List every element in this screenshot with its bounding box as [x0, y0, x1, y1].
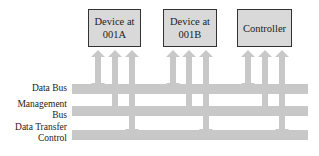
controller-data-bus-arrow-icon [241, 50, 255, 90]
device-001b-label-line1: Device at [170, 16, 210, 27]
device-001a-management-bus-arrow-icon [108, 50, 122, 112]
data-bus-label-text: Data Bus [32, 83, 67, 93]
device-001a-label-line1: Device at [95, 16, 135, 27]
controller-management-bus-arrow-icon [258, 50, 272, 112]
data-transfer-control-label-line1: Data Transfer [15, 122, 67, 132]
management-bus-label-line1: Management [17, 99, 67, 109]
device-001a-data-bus-arrow-icon [91, 50, 105, 90]
device-001a-label-line2: 001A [103, 29, 126, 40]
data-transfer-control-label-line2: Control [38, 133, 67, 143]
controller-box: Controller [237, 9, 292, 47]
device-001a-box: Device at 001A [88, 9, 141, 47]
device-001b-label-line2: 001B [179, 29, 202, 40]
device-001b-management-bus-arrow-icon [182, 50, 196, 112]
device-001b-box: Device at 001B [163, 9, 217, 47]
data-bus-label: Data Bus [32, 83, 67, 94]
device-001b-data-bus-arrow-icon [166, 50, 180, 90]
management-bus-label-line2: Bus [52, 110, 67, 120]
data-transfer-control-bus-line [72, 130, 308, 140]
management-bus-label: Management Bus [17, 99, 67, 121]
bus-diagram: Device at 001A Device at 001B Controller… [0, 0, 319, 156]
controller-label: Controller [243, 23, 286, 34]
data-transfer-control-label: Data Transfer Control [15, 122, 67, 144]
